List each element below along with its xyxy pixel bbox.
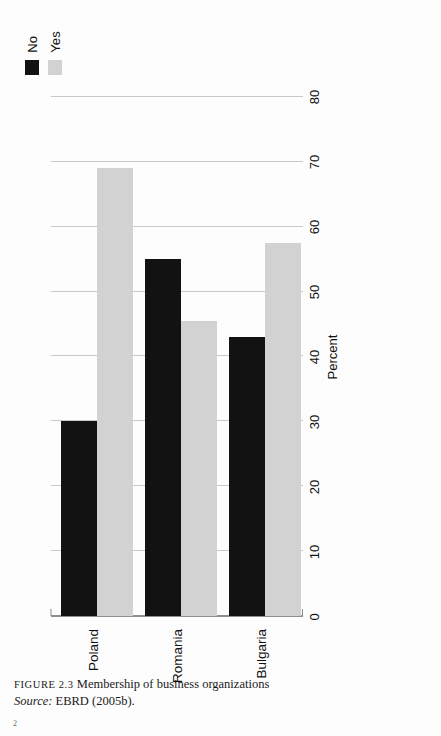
chart-legend: No Yes <box>25 31 62 75</box>
x-tick-label: 10 <box>307 545 322 559</box>
category-label: Bulgaria <box>253 629 268 679</box>
bar-no <box>61 421 97 616</box>
legend-item-no: No <box>25 31 39 75</box>
figure-caption: FIGURE 2.3 Membership of business organi… <box>14 676 354 710</box>
legend-item-yes: Yes <box>48 31 62 75</box>
bar-yes <box>265 243 301 616</box>
caption-figure-label: FIGURE 2.3 <box>14 679 74 690</box>
category-label: Romania <box>169 629 184 683</box>
page-folio: 2 <box>13 719 17 728</box>
legend-swatch-yes <box>48 60 62 75</box>
legend-label-no: No <box>25 36 38 53</box>
x-axis-title: Percent <box>325 97 340 617</box>
bar-group <box>219 97 303 616</box>
caption-source-text: EBRD (2005b). <box>56 694 135 708</box>
caption-source-label: Source: <box>14 694 52 708</box>
bar-chart: No Yes 01020304050607080 Percent PolandR… <box>17 23 317 713</box>
bar-group <box>51 97 135 616</box>
bar-yes <box>181 321 217 616</box>
x-tick-label: 0 <box>307 613 322 620</box>
x-tick-label: 80 <box>307 90 322 104</box>
rotated-figure: No Yes 01020304050607080 Percent PolandR… <box>17 23 425 713</box>
caption-title-line: FIGURE 2.3 Membership of business organi… <box>14 676 354 693</box>
caption-source-line: Source: EBRD (2005b). <box>14 693 354 710</box>
category-label: Poland <box>85 629 100 671</box>
x-tick-label: 20 <box>307 480 322 494</box>
bar-no <box>145 259 181 616</box>
scanned-page: No Yes 01020304050607080 Percent PolandR… <box>0 0 441 736</box>
x-tick-label: 60 <box>307 220 322 234</box>
bar-group <box>135 97 219 616</box>
x-tick-label: 30 <box>307 415 322 429</box>
plot-area <box>51 97 303 617</box>
bar-no <box>229 337 265 616</box>
caption-title-text: Membership of business organizations <box>77 677 269 691</box>
x-tick-label: 40 <box>307 350 322 364</box>
legend-swatch-no <box>25 60 39 75</box>
plot-canvas <box>51 97 303 617</box>
bar-yes <box>97 168 133 616</box>
x-axis-tick-labels: 01020304050607080 <box>303 97 327 617</box>
legend-label-yes: Yes <box>48 31 61 53</box>
x-tick-label: 70 <box>307 155 322 169</box>
x-tick-label: 50 <box>307 285 322 299</box>
